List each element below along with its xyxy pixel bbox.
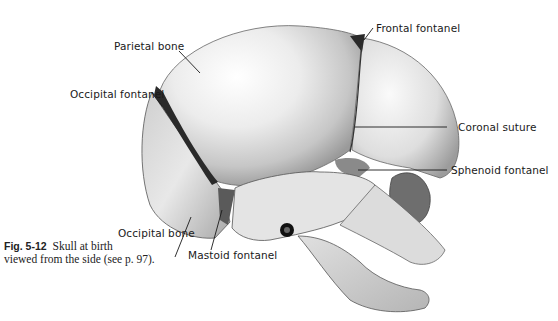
caption-line-2: viewed from the side (see p. 97). <box>4 253 155 266</box>
figure-number: Fig. 5-12 <box>4 240 47 252</box>
label-mastoid-fontanel: Mastoid fontanel <box>188 249 277 261</box>
label-frontal-fontanel: Frontal fontanel <box>376 22 460 34</box>
label-occipital-fontanel: Occipital fontanel <box>70 88 164 100</box>
label-occipital-bone: Occipital bone <box>118 227 195 239</box>
label-sphenoid-fontanel: Sphenoid fontanel <box>451 164 549 176</box>
figure-caption: Fig. 5-12Skull at birth viewed from the … <box>4 240 155 266</box>
caption-line-1: Skull at birth <box>53 240 113 252</box>
label-coronal-suture: Coronal suture <box>458 121 536 133</box>
label-parietal-bone: Parietal bone <box>114 40 184 52</box>
skull-illustration <box>0 0 558 321</box>
frontal-bone-shape <box>352 38 459 178</box>
